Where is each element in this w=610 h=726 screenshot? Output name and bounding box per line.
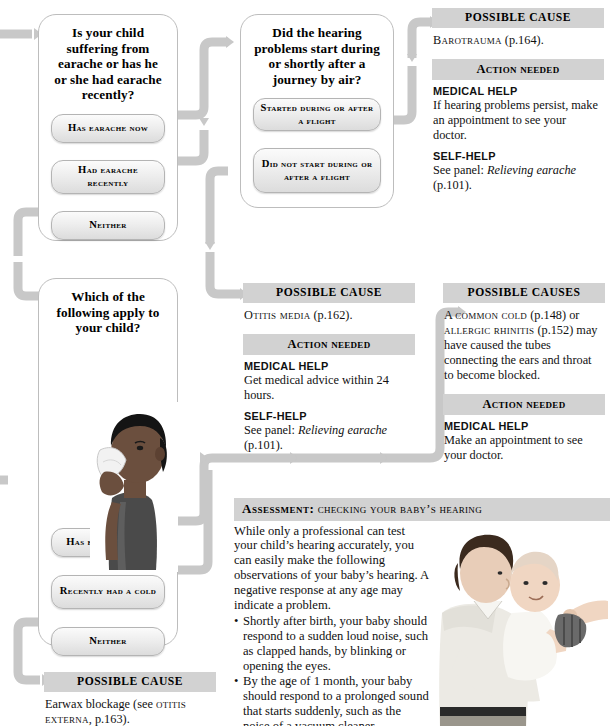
assessment-title-rest: checking your baby’s hearing (314, 502, 482, 516)
self-help-prefix: See panel: (244, 423, 298, 437)
panel-barotrauma: POSSIBLE CAUSE Barotrauma (p.164). Actio… (432, 8, 604, 192)
question-title: Did the hearing problems start during or… (253, 25, 381, 87)
medical-help-label: MEDICAL HELP (444, 420, 604, 433)
wire-q2a2b (210, 252, 240, 294)
cause-ref: (p.164). (502, 33, 544, 47)
cause-term: Barotrauma (433, 33, 502, 47)
cause-text: Otitis media (p.162). (243, 303, 415, 323)
possible-causes-heading: POSSIBLE CAUSES (443, 283, 605, 303)
answer-list: Has earache now Had earache recently Nei… (51, 114, 165, 240)
flowchart-page: Is your child suffering from earache or … (0, 0, 610, 726)
assessment-body: While only a professional can test your … (234, 521, 430, 726)
panel-otitis-media: POSSIBLE CAUSE Otitis media (p.162). Act… (243, 283, 415, 453)
cause-term: Otitis media (244, 308, 310, 322)
cause-text: Barotrauma (p.164). (432, 28, 604, 48)
action-body: MEDICAL HELP Get medical advice within 2… (243, 355, 415, 453)
answer-has-earache-now[interactable]: Has earache now (51, 114, 165, 143)
self-help-suffix: (p.101). (244, 438, 283, 452)
possible-cause-heading: POSSIBLE CAUSE (243, 283, 415, 303)
assessment-bullet-list: Shortly after birth, your baby should re… (234, 614, 430, 726)
cause-lead: A (444, 308, 455, 322)
self-help-label: SELF-HELP (244, 410, 414, 423)
self-help-text: See panel: Relieving earache (p.101). (433, 163, 603, 193)
action-body: MEDICAL HELP If hearing problems persist… (432, 80, 604, 192)
question-box-which-apply: Which of the following apply to your chi… (38, 278, 178, 646)
answer-started-after-flight[interactable]: Started during or after a flight (253, 98, 381, 131)
action-needed-heading: Action needed (432, 59, 604, 81)
wire-q3a3 (18, 622, 40, 680)
medical-help-text: Get medical advice within 24 hours. (244, 373, 414, 403)
cause-ref-1: (p.148) or (527, 308, 579, 322)
question-box-flight: Did the hearing problems start during or… (240, 14, 394, 208)
answer-not-started-after-flight[interactable]: Did not start during or after a flight (253, 148, 381, 193)
question-box-earache: Is your child suffering from earache or … (38, 14, 178, 241)
wire-q2a1 (394, 66, 412, 120)
wire-q1a2 (178, 130, 204, 161)
self-help-prefix: See panel: (433, 163, 487, 177)
answer-neither-earache[interactable]: Neither (51, 211, 165, 240)
cause-tail: , p.163). (89, 712, 130, 726)
panel-earwax: POSSIBLE CAUSE Earwax blockage (see otit… (44, 672, 216, 726)
answer-list: Started during or after a flight Did not… (253, 98, 381, 193)
medical-help-label: MEDICAL HELP (433, 85, 603, 98)
assessment-intro: While only a professional can test your … (234, 524, 430, 614)
wire-q2a2 (210, 171, 228, 244)
hearing-test-photo (430, 529, 608, 726)
panel-blocked-tubes: POSSIBLE CAUSES A common cold (p.148) or… (443, 283, 605, 463)
medical-help-text: Make an appointment to see your doctor. (444, 433, 604, 463)
medical-help-label: MEDICAL HELP (244, 360, 414, 373)
self-help-panel-name: Relieving earache (487, 163, 576, 177)
assessment-bullet: Shortly after birth, your baby should re… (234, 614, 430, 674)
cause-ref: (p.162). (310, 308, 352, 322)
assessment-bullet: By the age of 1 month, your baby should … (234, 674, 430, 726)
medical-help-text: If hearing problems persist, make an app… (433, 98, 603, 142)
wire-q1a3-down (18, 212, 40, 256)
answer-neither-apply[interactable]: Neither (51, 627, 165, 656)
action-needed-heading: Action needed (243, 334, 415, 356)
self-help-panel-name: Relieving earache (298, 423, 387, 437)
cause-text: A common cold (p.148) or allergic rhinit… (443, 303, 605, 383)
question-title: Is your child suffering from earache or … (51, 25, 165, 103)
wire-q1a1 (178, 42, 228, 115)
self-help-text: See panel: Relieving earache (p.101). (244, 423, 414, 453)
answer-had-earache-recently[interactable]: Had earache recently (51, 160, 165, 194)
question-title: Which of the following apply to your chi… (51, 289, 165, 336)
answer-recently-had-cold[interactable]: Recently had a cold (51, 575, 165, 609)
wire-q1a3-in (18, 262, 40, 296)
cause-term-allergic-rhinitis: allergic rhinitis (444, 323, 534, 337)
possible-cause-heading: POSSIBLE CAUSE (44, 672, 216, 692)
cause-text: Earwax blockage (see otitis externa, p.1… (44, 692, 216, 726)
assessment-title-bar: Assessment: checking your baby’s hearing (234, 498, 610, 521)
cause-term-common-cold: common cold (455, 308, 527, 322)
assessment-panel: Assessment: checking your baby’s hearing… (234, 498, 610, 726)
assessment-title-strong: Assessment: (242, 501, 314, 516)
cause-ref-2: (p.152) (534, 323, 573, 337)
child-sneezing-photo (90, 402, 178, 572)
action-body: MEDICAL HELP Make an appointment to see … (443, 415, 605, 463)
possible-cause-heading: POSSIBLE CAUSE (432, 8, 604, 28)
action-needed-heading: Action needed (443, 394, 605, 416)
self-help-label: SELF-HELP (433, 150, 603, 163)
cause-lead: Earwax blockage (see (45, 697, 156, 711)
wire-q2a1b (412, 22, 432, 58)
self-help-suffix: (p.101). (433, 178, 472, 192)
